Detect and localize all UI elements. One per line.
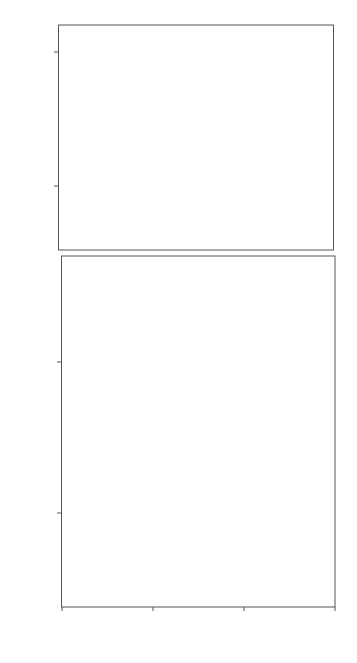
top-panel [54,25,334,250]
absorbance-figure [0,0,357,663]
bottom-panel [57,256,335,611]
bottom-panel-frame [62,256,336,607]
top-panel-frame [59,25,334,250]
